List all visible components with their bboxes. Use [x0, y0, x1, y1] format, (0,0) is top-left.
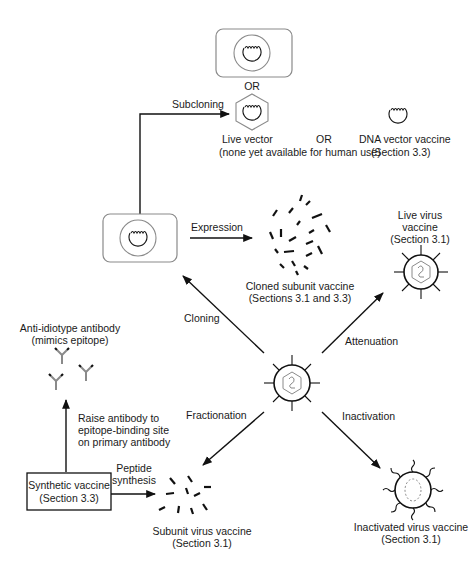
antibody-icons	[49, 348, 93, 390]
anti-idiotype-sublabel: (mimics epitope)	[31, 334, 108, 346]
live-vector-sublabel: (none yet available for human use)	[219, 146, 381, 158]
cloned-subunit-fragments-icon	[270, 195, 330, 275]
plasmid-dna-icon	[389, 109, 407, 124]
raise-antibody-label-3: on primary antibody	[78, 436, 171, 448]
synthetic-vaccine-sublabel: (Section 3.3)	[39, 492, 99, 504]
live-virus-sublabel: vaccine	[402, 221, 438, 233]
cell-box	[216, 29, 292, 77]
expression-cell-node	[103, 214, 177, 262]
dna-icon	[129, 232, 147, 247]
dna-vector-sublabel: (Section 3.3)	[371, 146, 431, 158]
peptide-synthesis-label-2: synthesis	[112, 474, 156, 486]
subcloning-arrow	[140, 114, 229, 214]
nucleus-circle	[120, 220, 156, 256]
or-label-mid: OR	[316, 133, 332, 145]
live-virus-icon	[394, 245, 448, 299]
raise-antibody-label-1: Raise antibody to	[78, 412, 159, 424]
dna-icon	[243, 47, 261, 62]
live-vector-node	[236, 94, 268, 130]
nucleus-circle	[234, 35, 270, 71]
hexagon-capsid-icon	[236, 94, 268, 130]
top-cell-node	[216, 29, 292, 77]
synthetic-vaccine-label: Synthetic vaccine	[28, 479, 110, 491]
subcloning-label: Subcloning	[172, 98, 224, 110]
inactivation-label: Inactivation	[342, 410, 395, 422]
expression-label: Expression	[191, 221, 243, 233]
or-label-top: OR	[244, 80, 260, 92]
cell-box	[103, 214, 177, 262]
inactivated-virus-sublabel: (Section 3.1)	[381, 533, 441, 545]
live-vector-label: Live vector	[222, 133, 273, 145]
subunit-virus-label: Subunit virus vaccine	[152, 525, 251, 537]
anti-idiotype-label: Anti-idiotype antibody	[20, 322, 121, 334]
dna-icon	[243, 106, 261, 121]
central-virus-icon	[264, 355, 320, 411]
cloned-subunit-sublabel: (Sections 3.1 and 3.3)	[249, 292, 352, 304]
dna-vector-label: DNA vector vaccine	[359, 133, 451, 145]
antibody-icon	[49, 374, 63, 390]
inactivated-virus-icon	[383, 460, 443, 520]
cloned-subunit-label: Cloned subunit vaccine	[246, 280, 355, 292]
subunit-virus-sublabel: (Section 3.1)	[172, 537, 232, 549]
live-virus-section: (Section 3.1)	[390, 233, 450, 245]
subunit-virus-fragments-icon	[159, 476, 211, 514]
antibody-icon	[79, 365, 93, 381]
inactivated-virus-label: Inactivated virus vaccine	[354, 521, 469, 533]
raise-antibody-label-2: epitope-binding site	[78, 424, 169, 436]
antibody-icon	[55, 348, 69, 364]
live-virus-label: Live virus	[398, 209, 442, 221]
fractionation-label: Fractionation	[186, 409, 247, 421]
vaccine-strategies-diagram: OR Live vector (none yet available for h…	[0, 0, 471, 576]
cloning-label: Cloning	[184, 312, 220, 324]
peptide-synthesis-label-1: Peptide	[116, 462, 152, 474]
attenuation-label: Attenuation	[345, 335, 398, 347]
